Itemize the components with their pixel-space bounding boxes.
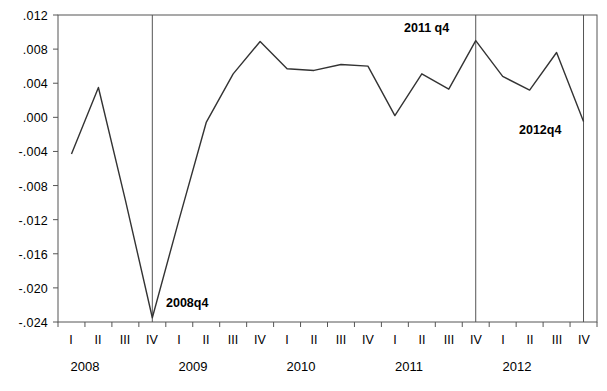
x-quarter-label: IV: [355, 333, 381, 347]
x-quarter-label: I: [490, 333, 516, 347]
x-quarter-label: II: [193, 333, 219, 347]
x-quarter-label: III: [544, 333, 570, 347]
x-quarter-label: II: [517, 333, 543, 347]
x-quarter-label: I: [166, 333, 192, 347]
x-quarter-label: III: [112, 333, 138, 347]
x-quarter-label: IV: [139, 333, 165, 347]
x-quarter-label: III: [328, 333, 354, 347]
x-year-label: 2009: [138, 359, 248, 374]
x-quarter-label: IV: [247, 333, 273, 347]
annotation-2008q4: 2008q4: [166, 296, 208, 310]
x-quarter-label: II: [85, 333, 111, 347]
x-quarter-label: II: [301, 333, 327, 347]
x-year-label: 2012: [462, 359, 572, 374]
x-quarter-label: IV: [463, 333, 489, 347]
x-quarter-label: I: [58, 333, 84, 347]
data-series-line: [71, 41, 583, 318]
x-quarter-label: III: [220, 333, 246, 347]
x-quarter-label: II: [409, 333, 435, 347]
annotation-2011q4: 2011 q4: [404, 21, 449, 35]
line-chart: .012 .008 .004 .000 -.004 -.008 -.012 -.…: [0, 0, 607, 391]
annotation-2012q4: 2012q4: [519, 123, 561, 137]
x-quarter-label: I: [274, 333, 300, 347]
x-year-label: 2011: [354, 359, 464, 374]
x-quarter-label: III: [436, 333, 462, 347]
x-quarter-label: IV: [571, 333, 597, 347]
x-year-label: 2008: [30, 359, 140, 374]
x-year-label: 2010: [246, 359, 356, 374]
x-quarter-label: I: [382, 333, 408, 347]
